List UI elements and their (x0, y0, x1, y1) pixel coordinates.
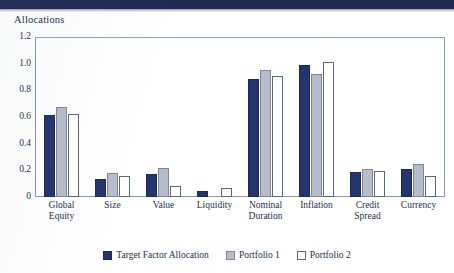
legend-swatch-icon (297, 251, 306, 260)
bar (272, 76, 283, 197)
legend-swatch-icon (226, 251, 235, 260)
x-axis-label-line: Nominal (240, 200, 291, 211)
x-axis-labels: GlobalEquitySizeValueLiquidityNominalDur… (36, 200, 444, 234)
top-band-shadow (0, 9, 454, 12)
legend-swatch-icon (103, 251, 112, 260)
bar (248, 79, 259, 197)
x-axis-label-line: Value (138, 200, 189, 211)
y-axis-tick-label: 0.6 (0, 112, 31, 122)
bar-group (299, 38, 334, 197)
x-axis-category-label: Currency (393, 200, 444, 211)
bar (146, 174, 157, 197)
bar (323, 62, 334, 197)
x-axis-label-line: Global (36, 200, 87, 211)
bar (44, 115, 55, 197)
x-axis-category-label: Liquidity (189, 200, 240, 211)
bar (158, 168, 169, 197)
bar (299, 65, 310, 198)
y-axis-tick-label: 0.2 (0, 165, 31, 175)
legend-label: Portfolio 1 (239, 250, 280, 260)
x-axis-category-label: NominalDuration (240, 200, 291, 222)
x-axis-category-label: GlobalEquity (36, 200, 87, 222)
x-axis-label-line: Inflation (291, 200, 342, 211)
bar-group (401, 38, 436, 197)
x-axis-label-line: Equity (36, 211, 87, 222)
x-axis-label-line: Liquidity (189, 200, 240, 211)
y-axis-tick-label: 0.4 (0, 139, 31, 149)
y-axis-tick-label: 0.8 (0, 85, 31, 95)
bar (221, 188, 232, 197)
bar (170, 186, 181, 197)
top-decorative-band (0, 0, 454, 9)
legend-item[interactable]: Target Factor Allocation (103, 250, 209, 260)
legend-label: Target Factor Allocation (116, 250, 209, 260)
x-axis-category-label: CreditSpread (342, 200, 393, 222)
bar (260, 70, 271, 197)
x-axis-label-line: Credit (342, 200, 393, 211)
legend-item[interactable]: Portfolio 2 (297, 250, 351, 260)
y-axis-tick-label: 1.2 (0, 32, 31, 42)
bar (374, 171, 385, 197)
bar (107, 173, 118, 197)
x-axis-label-line: Spread (342, 211, 393, 222)
bar (119, 176, 130, 197)
bar (362, 169, 373, 197)
chart-legend: Target Factor AllocationPortfolio 1Portf… (0, 250, 454, 260)
bar (311, 74, 322, 197)
x-axis-label-line: Currency (393, 200, 444, 211)
bar (95, 179, 106, 197)
bar (401, 169, 412, 197)
x-axis-category-label: Size (87, 200, 138, 211)
legend-label: Portfolio 2 (310, 250, 351, 260)
chart-title: Allocations (14, 14, 65, 25)
bar-group (350, 38, 385, 197)
y-axis-tick-label: 1.0 (0, 59, 31, 69)
legend-item[interactable]: Portfolio 1 (226, 250, 280, 260)
y-axis-tick-label: 0 (0, 192, 31, 202)
x-axis-category-label: Value (138, 200, 189, 211)
x-axis-label-line: Duration (240, 211, 291, 222)
bar-group (197, 38, 232, 197)
x-axis-label-line: Size (87, 200, 138, 211)
bar (56, 107, 67, 197)
bars-layer (36, 38, 444, 197)
bar-group (44, 38, 79, 197)
bar-group (146, 38, 181, 197)
bar (413, 164, 424, 197)
bar (425, 176, 436, 197)
x-axis-category-label: Inflation (291, 200, 342, 211)
bar (68, 114, 79, 197)
bar (197, 191, 208, 197)
bar-group (248, 38, 283, 197)
bar-group (95, 38, 130, 197)
bar (350, 172, 361, 197)
